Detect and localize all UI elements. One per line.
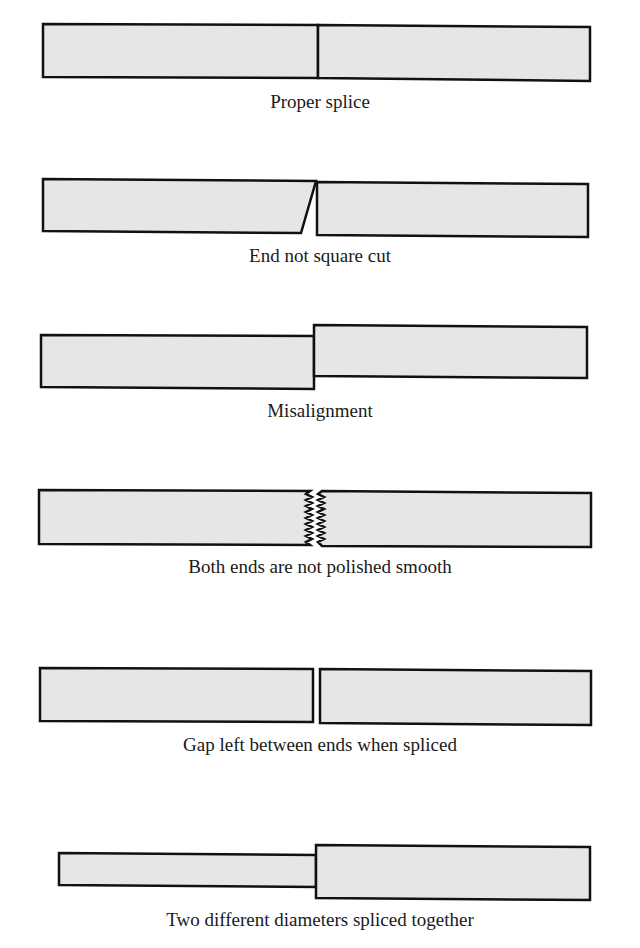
- not-square-cut-fiber: [43, 179, 588, 237]
- proper-splice-fiber: [43, 24, 590, 81]
- splice-diagrams: [0, 0, 640, 948]
- not-polished-fiber: [39, 490, 591, 547]
- caption-not-square-cut: End not square cut: [0, 245, 640, 267]
- different-diameters-fiber: [59, 845, 590, 900]
- caption-misalignment: Misalignment: [0, 400, 640, 422]
- caption-proper-splice: Proper splice: [0, 91, 640, 113]
- gap-fiber: [40, 668, 591, 725]
- misalignment-fiber: [41, 325, 587, 389]
- caption-gap: Gap left between ends when spliced: [0, 734, 640, 756]
- caption-not-polished: Both ends are not polished smooth: [0, 556, 640, 578]
- caption-different-diameters: Two different diameters spliced together: [0, 909, 640, 931]
